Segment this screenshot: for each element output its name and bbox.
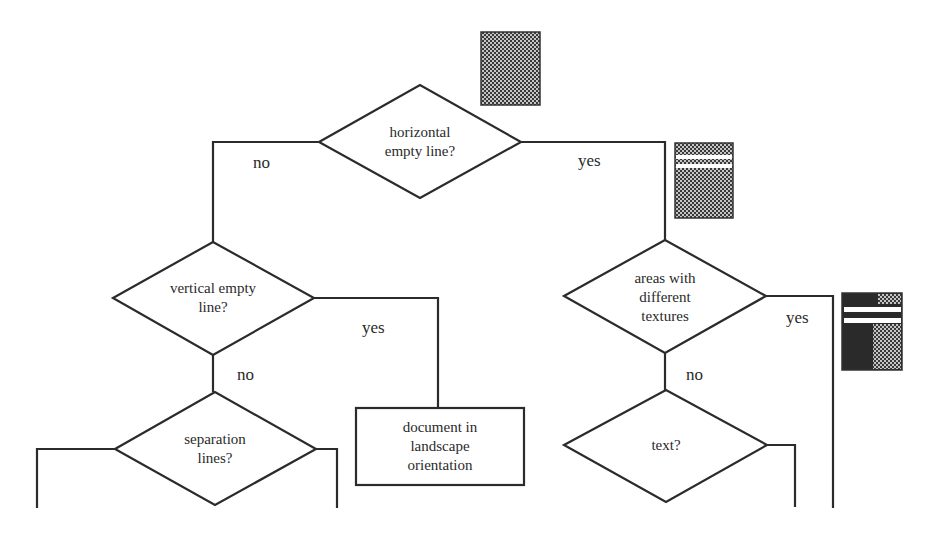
node-line: document in: [403, 418, 478, 437]
node-line: empty line?: [385, 142, 455, 161]
edge-label-horizontal-yes: yes: [578, 151, 601, 171]
edge-label-horizontal-no: no: [253, 153, 270, 173]
node-line: horizontal: [390, 123, 451, 142]
edge-label-vertical-no: no: [237, 365, 254, 385]
thumbnail-horizontal-gaps: [675, 143, 733, 218]
node-landscape-text: document in landscape orientation: [356, 408, 524, 485]
node-line: separation: [184, 430, 246, 449]
edge-separation-left: [37, 449, 115, 508]
edge-vertical-yes: [314, 298, 438, 408]
edge-label-vertical-yes: yes: [362, 318, 385, 338]
edge-text-right: [767, 445, 795, 507]
thumbnail-full-texture: [481, 32, 540, 105]
edge-label-textures-yes: yes: [786, 308, 809, 328]
edge-label-textures-no: no: [686, 365, 703, 385]
node-line: textures: [641, 307, 688, 326]
node-line: areas with: [634, 269, 695, 288]
node-line: lines?: [198, 449, 233, 468]
node-line: different: [639, 288, 690, 307]
node-text-text: text?: [586, 425, 746, 465]
node-line: text?: [651, 436, 680, 455]
node-line: orientation: [408, 456, 473, 475]
node-line: line?: [198, 298, 227, 317]
node-vertical-text: vertical empty line?: [133, 268, 293, 328]
node-line: vertical empty: [170, 279, 256, 298]
node-separation-text: separation lines?: [135, 419, 295, 479]
edge-separation-right: [316, 449, 337, 508]
node-textures-text: areas with different textures: [585, 258, 745, 336]
node-horizontal-text: horizontal empty line?: [340, 112, 500, 172]
thumbnail-mixed-textures: [842, 293, 902, 370]
node-line: landscape: [410, 437, 469, 456]
